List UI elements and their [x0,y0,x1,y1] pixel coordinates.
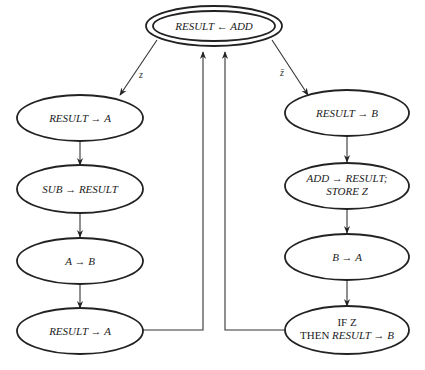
edge-start-to-l1: z [120,40,157,95]
node-r2: ADD → RESULT; STORE Z [285,163,409,209]
node-r1: RESULT → B [285,90,409,136]
node-start: RESULT ← ADD [146,6,282,46]
node-l1: RESULT → A [17,95,143,141]
node-r4-line2: THEN RESULT → B [300,329,394,341]
svg-text:RESULT → A: RESULT → A [48,325,111,337]
flowchart-diagram: z z̄ RESULT ← ADD RESULT → A SUB → RESUL… [0,0,425,370]
svg-text:IF Z: IF Z [337,316,357,328]
svg-text:z: z [138,69,143,80]
edge-r4-start [225,52,285,330]
svg-text:RESULT → A: RESULT → A [48,112,111,124]
svg-text:A → B: A → B [64,255,95,267]
svg-text:SUB → RESULT: SUB → RESULT [42,183,118,195]
node-l4: RESULT → A [17,308,143,354]
node-l3: A → B [17,238,143,284]
svg-text:z̄: z̄ [279,67,284,78]
edge-start-to-r1: z̄ [272,40,308,95]
svg-text:ADD → RESULT;: ADD → RESULT; [306,172,388,184]
svg-text:RESULT → B: RESULT → B [315,107,378,119]
node-r3: B → A [285,234,409,280]
svg-text:B → A: B → A [332,251,362,263]
svg-text:RESULT ← ADD: RESULT ← ADD [174,20,253,32]
node-l2: SUB → RESULT [17,165,143,213]
svg-text:STORE Z: STORE Z [326,185,369,197]
edge-l4-start [143,52,203,330]
node-r4: IF Z THEN RESULT → B [285,306,409,354]
